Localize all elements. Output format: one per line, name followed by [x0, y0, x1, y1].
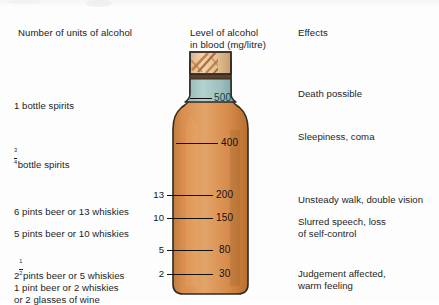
unit-tick-number-2: 2: [144, 269, 164, 279]
effect-row-2: Sleepiness, coma: [298, 131, 375, 143]
unit-tick-number-13: 13: [144, 190, 164, 200]
level-tick-line-80: [176, 250, 213, 251]
level-tick-line-150: [176, 218, 213, 219]
scan-smudge: [86, 0, 112, 7]
effect-row-1: Death possible: [298, 88, 362, 100]
units-row-2-label: 3 4 bottle spirits: [14, 131, 70, 171]
level-tick-line-30: [176, 274, 213, 275]
level-tick-number-400: 400: [221, 138, 238, 148]
effect-row-4: Slurred speech, loss of self-control: [298, 216, 386, 240]
effect-row-3: Unsteady walk, double vision: [298, 194, 423, 206]
level-tick-line-200: [176, 195, 213, 196]
column-header-units: Number of units of alcohol: [18, 27, 132, 39]
scan-artifact: [0, 0, 439, 9]
units-row-6-text: 1 pint beer or 2 whiskies or 2 glasses o…: [14, 282, 119, 305]
units-row-1-label: 1 bottle spirits: [14, 88, 74, 112]
unit-tick-number-10: 10: [144, 213, 164, 223]
spirits-bottle-illustration: [168, 50, 260, 296]
level-tick-number-500: 500: [214, 93, 231, 103]
scan-smudge-secondary: [8, 0, 42, 4]
level-tick-number-200: 200: [216, 190, 233, 200]
level-tick-number-30: 30: [219, 269, 231, 279]
units-row-3-label: 6 pints beer or 13 whiskies: [14, 194, 129, 218]
units-row-4-text: 5 pints beer or 10 whiskies: [14, 228, 129, 239]
unit-tick-number-5: 5: [144, 245, 164, 255]
units-row-6-label: 1 pint beer or 2 whiskies or 2 glasses o…: [14, 270, 119, 305]
level-tick-line-500: [190, 98, 212, 99]
level-tick-line-400: [176, 143, 218, 144]
units-row-4-label: 5 pints beer or 10 whiskies: [14, 216, 129, 240]
level-tick-number-80: 80: [219, 245, 231, 255]
level-tick-number-150: 150: [216, 213, 233, 223]
units-row-1-text: 1 bottle spirits: [14, 100, 74, 111]
effect-row-6: Judgement affected, warm feeling: [298, 268, 386, 292]
units-row-2-text: bottle spirits: [18, 159, 70, 170]
column-header-blood-level: Level of alcohol in blood (mg/litre): [190, 27, 266, 50]
column-header-effects: Effects: [298, 27, 328, 39]
